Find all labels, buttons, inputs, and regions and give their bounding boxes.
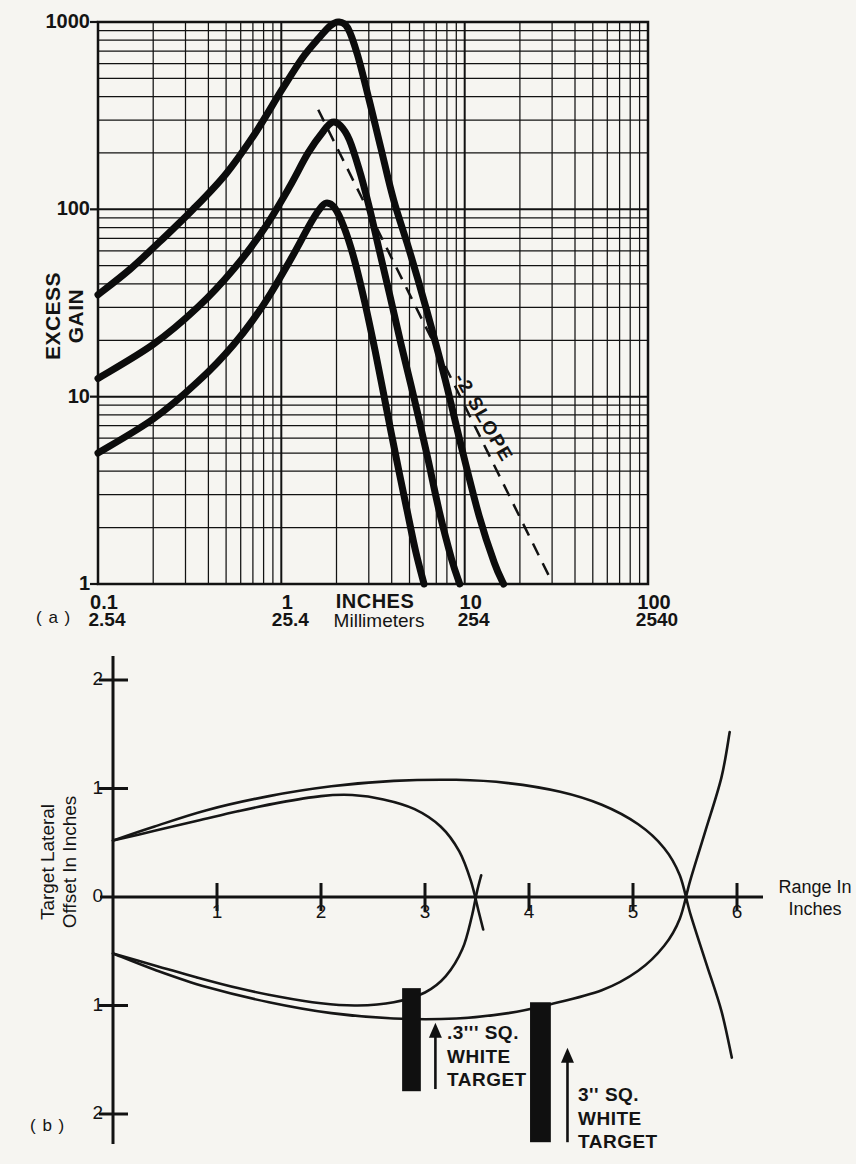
small-target-annotation-line1: .3''' SQ. <box>447 1021 527 1045</box>
small-target-annotation: .3''' SQ. WHITE TARGET <box>447 1021 527 1092</box>
lateral-offset-axis-title-line1: Target Lateral <box>37 796 59 929</box>
large-target-lobe-lower <box>113 732 730 1019</box>
range-b-x-tick-label: 5 <box>628 902 639 923</box>
range-x-tick-label-mm: 25.4 <box>272 610 309 631</box>
panel-a-label: ( a ) <box>36 609 71 628</box>
offset-y-tick-label: 1 <box>63 778 103 799</box>
excess-gain-y-tick-label: 10 <box>28 385 90 407</box>
range-b-x-tick-label: 2 <box>316 902 327 923</box>
inches-axis-title: INCHES <box>336 590 415 612</box>
range-axis-title-line2: Inches <box>768 898 856 920</box>
lateral-offset-axis-title: Target Lateral Offset In Inches <box>37 796 81 929</box>
panel-b-label: ( b ) <box>30 1117 65 1136</box>
excess-gain-curves <box>98 22 504 584</box>
small-target-bar <box>402 988 421 1091</box>
excess-gain-y-tick-label: 100 <box>28 197 90 219</box>
millimeters-axis-title: Millimeters <box>334 611 425 632</box>
range-x-tick-label-mm: 2540 <box>636 610 678 631</box>
range-x-tick-label-mm: 2.54 <box>89 610 126 631</box>
excess-gain-axis-title-line2: GAIN <box>64 272 87 360</box>
high-gain-curve-peak-1000 <box>98 22 504 584</box>
range-b-x-tick-label: 6 <box>732 902 743 923</box>
figure-canvas <box>0 0 856 1164</box>
large-target-annotation-line3: TARGET <box>578 1130 658 1154</box>
offset-y-tick-label: 2 <box>63 1103 103 1124</box>
excess-gain-axis-title-line1: EXCESS <box>41 272 64 360</box>
large-target-bar <box>530 1002 551 1142</box>
scanned-figure-page: EXCESS GAIN INCHES Millimeters ( a ) -2 … <box>0 0 856 1164</box>
low-gain-curve-peak-110 <box>98 203 424 584</box>
range-axis-title: Range In Inches <box>768 876 856 920</box>
large-target-arrow-head <box>561 1048 574 1063</box>
excess-gain-y-tick-label: 1000 <box>28 10 90 32</box>
range-b-x-tick-label: 1 <box>212 902 223 923</box>
offset-y-tick-label: 2 <box>63 669 103 690</box>
offset-y-tick-label: 0 <box>63 886 103 907</box>
offset-y-tick-label: 1 <box>63 995 103 1016</box>
beam-pattern-axes <box>99 656 763 1144</box>
range-axis-title-line1: Range In <box>768 876 856 898</box>
large-target-annotation-line2: WHITE <box>578 1107 658 1131</box>
small-target-arrow-head <box>429 1023 442 1038</box>
large-target-annotation-line1: 3'' SQ. <box>578 1083 658 1107</box>
excess-gain-axis-title: EXCESS GAIN <box>41 272 87 360</box>
small-target-annotation-line2: WHITE <box>447 1045 527 1069</box>
range-b-x-tick-label: 4 <box>524 902 535 923</box>
large-target-annotation: 3'' SQ. WHITE TARGET <box>578 1083 658 1154</box>
beam-pattern-curves <box>113 732 732 1058</box>
range-x-tick-label-mm: 254 <box>458 610 490 631</box>
lateral-offset-axis-title-line2: Offset In Inches <box>59 796 81 929</box>
small-target-annotation-line3: TARGET <box>447 1068 527 1092</box>
range-b-x-tick-label: 3 <box>420 902 431 923</box>
excess-gain-y-tick-label: 1 <box>28 572 90 594</box>
